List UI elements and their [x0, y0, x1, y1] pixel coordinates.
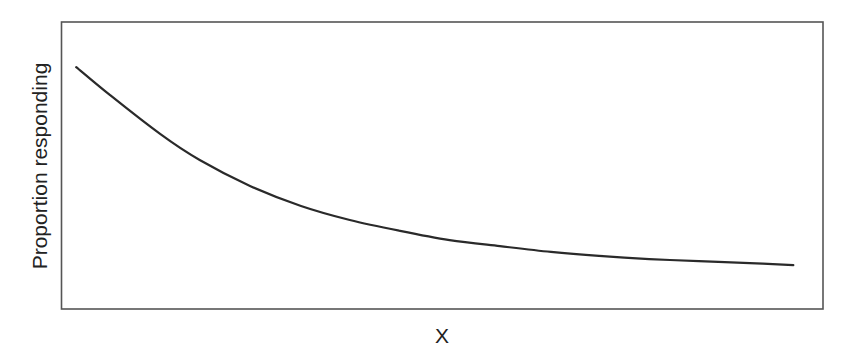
chart	[0, 0, 848, 356]
x-axis-label: X	[435, 324, 449, 348]
y-axis-label: Proportion responding	[28, 63, 52, 270]
plot-frame	[62, 22, 824, 309]
response-curve	[76, 67, 793, 265]
